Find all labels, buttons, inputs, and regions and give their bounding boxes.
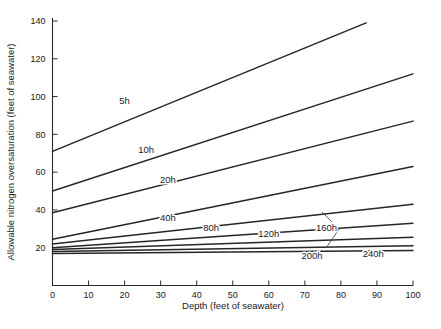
curve-5h bbox=[53, 23, 367, 151]
curve-20h bbox=[53, 121, 414, 213]
x-tick-label: 70 bbox=[300, 290, 310, 300]
y-tick-label: 40 bbox=[35, 205, 45, 215]
oversaturation-depth-chart: 20406080100120140 0102030405060708090100… bbox=[0, 0, 441, 329]
curve-80h bbox=[53, 204, 414, 244]
y-tick-label: 120 bbox=[30, 54, 45, 64]
curve-label-240h: 240h bbox=[363, 248, 384, 259]
y-tick-label: 60 bbox=[35, 167, 45, 177]
curve-40h bbox=[53, 166, 414, 239]
y-tick-label: 140 bbox=[30, 16, 45, 26]
x-axis-title: Depth (feet of seawater) bbox=[182, 300, 284, 311]
curve-label-10h: 10h bbox=[138, 144, 154, 155]
x-axis-tick-labels: 0102030405060708090100 bbox=[50, 290, 421, 300]
curve-label-160h: 160h bbox=[316, 222, 337, 233]
data-curves bbox=[53, 23, 414, 253]
curve-10h bbox=[53, 74, 414, 191]
x-tick-label: 40 bbox=[192, 290, 202, 300]
x-axis-ticks bbox=[53, 281, 414, 286]
x-tick-label: 90 bbox=[372, 290, 382, 300]
chart-container: 20406080100120140 0102030405060708090100… bbox=[0, 0, 441, 329]
x-tick-label: 0 bbox=[50, 290, 55, 300]
x-tick-label: 10 bbox=[84, 290, 94, 300]
curve-label-20h: 20h bbox=[160, 174, 176, 185]
y-axis-tick-labels: 20406080100120140 bbox=[30, 16, 45, 253]
curve-labels: 5h10h20h40h80h120h160h200h240h bbox=[119, 95, 384, 261]
x-tick-label: 50 bbox=[228, 290, 238, 300]
y-tick-label: 20 bbox=[35, 243, 45, 253]
curve-label-200h: 200h bbox=[301, 250, 322, 261]
curve-label-120h: 120h bbox=[258, 228, 279, 239]
y-tick-label: 80 bbox=[35, 130, 45, 140]
curve-label-80h: 80h bbox=[203, 222, 219, 233]
x-tick-label: 80 bbox=[336, 290, 346, 300]
y-axis-ticks bbox=[53, 21, 58, 248]
x-tick-label: 100 bbox=[405, 290, 420, 300]
y-tick-label: 100 bbox=[30, 92, 45, 102]
y-axis-title: Allowable nitrogen oversaturation (feet … bbox=[5, 43, 16, 260]
curve-label-5h: 5h bbox=[119, 95, 130, 106]
x-tick-label: 20 bbox=[120, 290, 130, 300]
x-tick-label: 30 bbox=[156, 290, 166, 300]
x-tick-label: 60 bbox=[264, 290, 274, 300]
curve-label-40h: 40h bbox=[160, 212, 176, 223]
